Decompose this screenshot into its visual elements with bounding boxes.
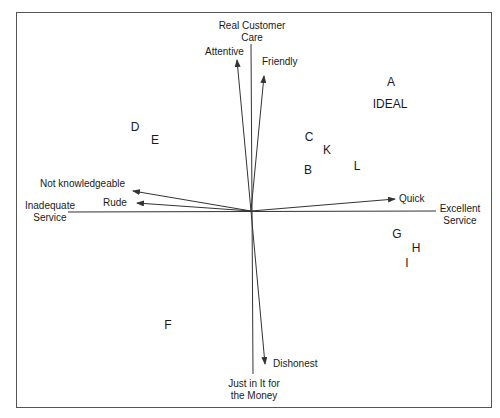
rude-arrow xyxy=(137,203,251,211)
axis-label-left-line1: Inadequate xyxy=(22,200,78,212)
vector-label-rude: Rude xyxy=(103,197,127,209)
point-ideal: IDEAL xyxy=(373,98,408,110)
point-a: A xyxy=(387,76,395,88)
axis-label-top-line1: Real Customer xyxy=(210,20,294,32)
axis-label-right-line1: Excellent xyxy=(434,203,486,215)
axis-label-left-line2: Service xyxy=(22,212,78,224)
point-g: G xyxy=(392,228,401,240)
axis-label-bottom-line1: Just in It for xyxy=(214,378,294,390)
friendly-arrow xyxy=(251,76,264,211)
point-i: I xyxy=(405,257,408,269)
axis-label-bottom-line2: the Money xyxy=(214,390,294,402)
vector-label-attentive: Attentive xyxy=(205,46,244,58)
axis-label-right: Excellent Service xyxy=(434,203,486,227)
attentive-arrow xyxy=(237,60,251,211)
axis-label-top-line2: Care xyxy=(210,32,294,44)
quick-arrow xyxy=(251,199,395,211)
point-b: B xyxy=(304,164,312,176)
axis-label-bottom: Just in It for the Money xyxy=(214,378,294,402)
axis-label-left: Inadequate Service xyxy=(22,200,78,224)
vector-label-not-knowledgeable: Not knowledgeable xyxy=(40,178,125,190)
axis-label-top: Real Customer Care xyxy=(210,20,294,44)
vector-label-friendly: Friendly xyxy=(262,56,298,68)
not-knowledgeable-arrow xyxy=(133,191,251,211)
point-c: C xyxy=(305,131,314,143)
point-f: F xyxy=(164,319,171,331)
axis-label-right-line2: Service xyxy=(434,215,486,227)
vector-label-dishonest: Dishonest xyxy=(273,358,317,370)
point-d: D xyxy=(131,121,140,133)
vector-label-quick: Quick xyxy=(399,193,425,205)
point-e: E xyxy=(151,134,159,146)
point-k: K xyxy=(323,144,331,156)
point-l: L xyxy=(354,160,361,172)
point-h: H xyxy=(412,242,421,254)
